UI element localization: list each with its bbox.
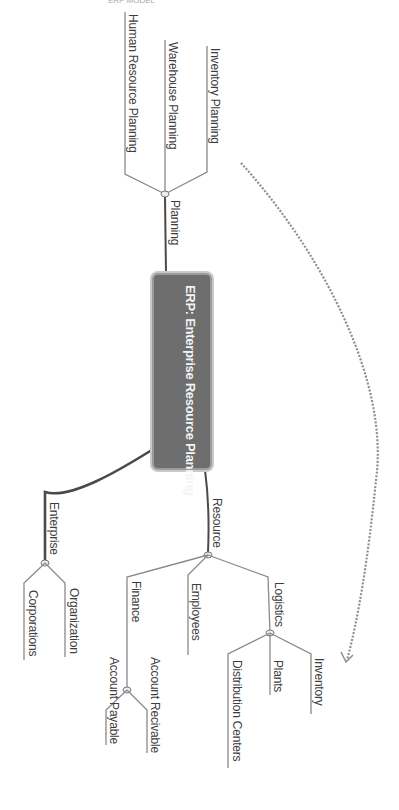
topic-plants[interactable]: Plants: [271, 660, 285, 692]
topic-resource[interactable]: Resource: [210, 498, 224, 548]
relationship-dashed-arrow: [241, 163, 378, 660]
link-center-planning: [165, 197, 166, 273]
topic-planning[interactable]: Planning: [168, 200, 182, 245]
topic-human-resource-planning[interactable]: Human Resource Planning: [126, 14, 140, 153]
link-resource-logistics: [208, 555, 270, 633]
mind-map-canvas: ERP MODEL ERP: Enterprise R: [0, 0, 399, 810]
topic-warehouse-planning[interactable]: Warehouse Planning: [166, 42, 180, 149]
topic-organization[interactable]: Organization: [67, 588, 81, 654]
central-topic-label: ERP: Enterprise Resource Planning: [183, 285, 198, 495]
topic-inventory-planning[interactable]: Inventory Planning: [208, 48, 222, 144]
topic-account-payable[interactable]: Account Payable: [107, 657, 121, 744]
link-center-enterprise: [45, 448, 155, 561]
topic-finance[interactable]: Finance: [129, 581, 143, 622]
topic-inventory[interactable]: Inventory: [312, 658, 326, 706]
topic-logistics[interactable]: Logistics: [272, 582, 286, 627]
topic-distribution-centers[interactable]: Distribution Centers: [230, 660, 244, 761]
topic-account-recivable[interactable]: Account Recivable: [148, 657, 162, 753]
topic-corporations[interactable]: Corporations: [26, 590, 40, 656]
planning-junction-node: [161, 191, 169, 197]
link-enterprise-organization: [45, 563, 65, 657]
link-center-resource: [205, 470, 209, 553]
central-topic-node[interactable]: ERP: Enterprise Resource Planning: [152, 273, 212, 470]
link-finance-receivable: [127, 690, 147, 753]
topic-enterprise[interactable]: Enterprise: [47, 502, 61, 555]
topic-employees[interactable]: Employees: [189, 583, 203, 641]
